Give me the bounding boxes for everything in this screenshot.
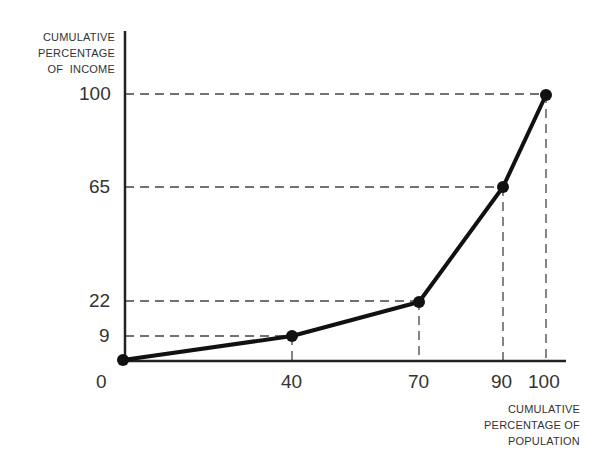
x-axis-title-line-3: POPULATION bbox=[460, 434, 580, 449]
guide-lines bbox=[125, 94, 546, 360]
y-tick-65: 65 bbox=[89, 176, 110, 198]
lorenz-curve bbox=[123, 95, 546, 360]
x-tick-100: 100 bbox=[528, 371, 560, 393]
origin-label: 0 bbox=[96, 371, 107, 393]
y-tick-22: 22 bbox=[89, 290, 110, 312]
y-tick-9: 9 bbox=[99, 325, 110, 347]
x-tick-70: 70 bbox=[408, 371, 429, 393]
x-tick-40: 40 bbox=[281, 371, 302, 393]
x-tick-90: 90 bbox=[491, 371, 512, 393]
y-tick-100: 100 bbox=[79, 83, 111, 105]
x-axis-title-line-1: CUMULATIVE bbox=[460, 402, 580, 417]
x-axis-title-line-2: PERCENTAGE OF bbox=[460, 418, 580, 433]
